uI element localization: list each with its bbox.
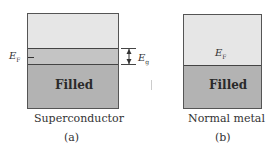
filled-label-b: Filled	[209, 78, 247, 92]
fermi-level-label-b: EF	[215, 47, 226, 60]
filled-label-a: Filled	[55, 78, 93, 92]
stray-mark	[151, 80, 152, 90]
fermi-level-label-a: EF	[9, 50, 20, 63]
gap-arrow-icon	[120, 46, 138, 68]
fermi-level-tick	[28, 57, 34, 58]
gap-label: Eg	[138, 52, 149, 65]
panel-b-caption: (b)	[215, 131, 231, 144]
superconductor-title: Superconductor	[34, 112, 124, 125]
normal-metal-title: Normal metal	[188, 112, 265, 125]
normal-metal-frame	[183, 14, 262, 109]
panel-a-caption: (a)	[64, 131, 79, 144]
superconductor-frame	[27, 13, 119, 109]
